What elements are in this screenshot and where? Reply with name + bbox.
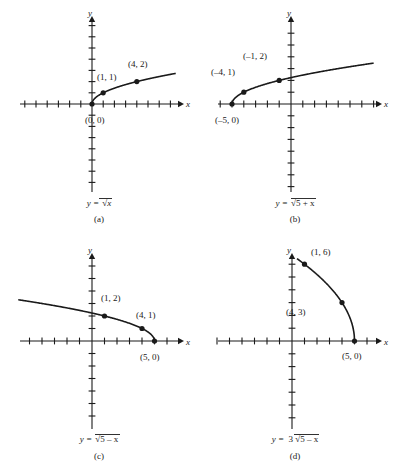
panel-b-letter: (b) (290, 214, 301, 224)
panel-d-curve (297, 259, 355, 341)
panel-a-xaxis-label: x (185, 99, 190, 109)
panel-b-point-label-0: (–5, 0) (215, 115, 239, 125)
panel-d-point-2 (352, 338, 357, 343)
panel-c-point-label-1: (1, 2) (101, 293, 121, 303)
panel-d-point-label-1: (1, 6) (311, 247, 331, 257)
panel-a-equation: y = √x (86, 198, 112, 208)
panel-d-point-0 (302, 262, 307, 267)
svg-text:y = √x: y = √x (86, 198, 112, 208)
panel-d-yaxis-label: y (286, 245, 291, 255)
panel-d-point-1 (339, 300, 344, 305)
panel-d-eq-coef: 3 (288, 434, 293, 444)
panel-a-point-label-0: (0, 0) (85, 115, 105, 125)
svg-text:y = √5 +: y = √5 + x (274, 198, 315, 208)
panel-c-xaxis-label: x (185, 337, 190, 347)
panel-b-plot: x y (–4, 1) (–1, 2) (–5, 0) y = √5 + x (… (198, 0, 395, 235)
panel-a-eq-lhs: y = (86, 198, 99, 208)
panel-b-eq-lhs: y = (274, 198, 287, 208)
panel-b-axes (218, 16, 382, 192)
panel-c-curve (18, 300, 154, 341)
svg-text:y = √5 –: y = √5 – x (79, 434, 119, 444)
panel-a-point-1 (101, 90, 106, 95)
panel-c-point-1 (139, 326, 144, 331)
panel-a-point-label-1: (1, 1) (97, 72, 117, 82)
panel-c-axes (20, 253, 184, 429)
panel-c-eq-lhs: y = (79, 434, 92, 444)
panel-b-yaxis-label: y (286, 8, 291, 18)
panel-c-point-label-0: (5, 0) (140, 352, 160, 362)
panel-c: x y (1, 2) (4, 1) (5, 0) y = √5 – x (c) (0, 235, 198, 471)
panel-c-equation: y = √5 – x (79, 434, 120, 444)
panel-d-eq-lhs: y = (271, 434, 284, 444)
panel-d-point-label-0: (5, 0) (342, 351, 362, 361)
panel-b-point-2 (277, 78, 282, 83)
panel-d: x y (1, 6) (4, 3) (5, 0) y = 3 √5 – x (d… (198, 235, 395, 471)
svg-text:y = 3 √5 –: y = 3 √5 – x (271, 434, 319, 444)
panel-d-letter: (d) (290, 451, 301, 461)
panel-b-eq-radicand: 5 + x (296, 198, 315, 208)
panel-a-letter: (a) (94, 214, 104, 224)
panel-d-point-label-2: (4, 3) (286, 307, 306, 317)
panel-b-point-0 (229, 101, 234, 106)
panel-b-equation: y = √5 + x (274, 198, 316, 208)
panel-a-point-0 (89, 101, 94, 106)
panel-b: x y (–4, 1) (–1, 2) (–5, 0) y = √5 + x (… (198, 0, 395, 235)
panel-c-point-label-2: (4, 1) (136, 310, 156, 320)
panel-a: x y (1, 1) (4, 2) (0, 0) y = √x (a) (0, 0, 198, 235)
panel-b-curve (232, 63, 374, 104)
panel-d-axes (217, 253, 382, 429)
panel-a-point-label-2: (4, 2) (128, 59, 148, 69)
panel-a-plot: x y (1, 1) (4, 2) (0, 0) y = √x (a) (0, 0, 198, 235)
panel-b-point-label-1: (–4, 1) (211, 67, 235, 77)
figure-root: x y (1, 1) (4, 2) (0, 0) y = √x (a) x y (0, 0, 395, 471)
panel-b-point-1 (241, 90, 246, 95)
panel-b-xaxis-label: x (383, 99, 388, 109)
panel-a-point-2 (134, 79, 139, 84)
panel-a-axes (20, 16, 184, 192)
panel-c-eq-radicand: 5 – x (100, 434, 119, 444)
panel-c-point-2 (152, 338, 157, 343)
panel-c-point-0 (102, 313, 107, 318)
panel-d-eq-radicand: 5 – x (300, 434, 319, 444)
panel-c-letter: (c) (94, 451, 104, 461)
panel-d-xaxis-label: x (383, 337, 388, 347)
panel-a-yaxis-label: y (87, 8, 92, 18)
panel-c-plot: x y (1, 2) (4, 1) (5, 0) y = √5 – x (c) (0, 235, 198, 471)
panel-d-equation: y = 3 √5 – x (271, 434, 319, 444)
panel-b-point-label-2: (–1, 2) (243, 51, 267, 61)
panel-d-plot: x y (1, 6) (4, 3) (5, 0) y = 3 √5 – x (d… (198, 235, 395, 471)
panel-c-yaxis-label: y (87, 245, 92, 255)
panel-a-eq-radicand: x (106, 198, 111, 208)
panel-d-points (302, 262, 357, 344)
